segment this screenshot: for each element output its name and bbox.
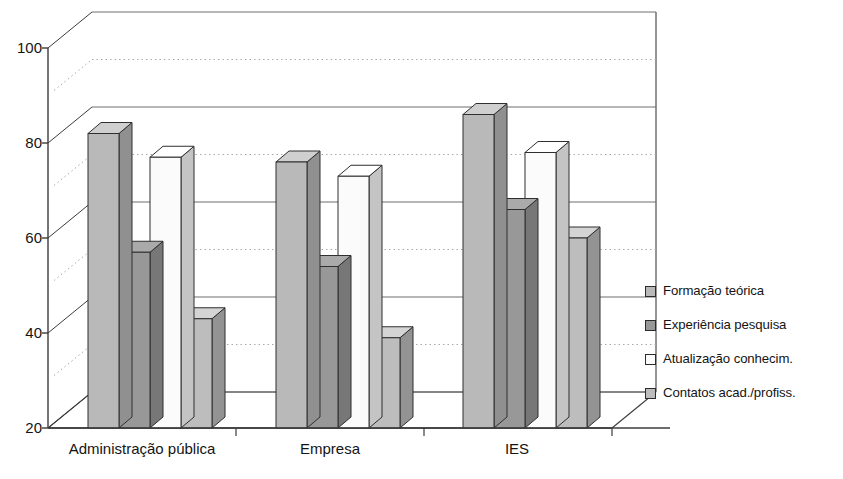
bar-0-0 [88,123,132,429]
bar-side-face [150,241,163,428]
y-axis-label-20: 20 [0,420,42,435]
bar-side-face [338,256,351,429]
grid-connector-minor-70 [54,155,92,186]
bar-side-face [494,104,507,429]
y-axis-label-60: 60 [0,230,42,245]
legend-item-3[interactable]: Contatos acad./profiss. [645,376,843,410]
grid-connector-60 [48,202,92,238]
bar-side-face [119,123,132,429]
bar-side-face [525,199,538,429]
y-axis-label-100: 100 [0,40,42,55]
bar-side-face [307,151,320,428]
y-axis-label-80: 80 [0,135,42,150]
bar-front-face [463,115,494,429]
grid-connector-40 [48,297,92,333]
x-axis-label-2: IES [407,441,627,457]
legend-item-label: Formação teórica [663,284,764,298]
legend-item-1[interactable]: Experiência pesquisa [645,308,843,342]
grid-connector-minor-50 [54,250,92,281]
legend-item-label: Experiência pesquisa [663,318,786,332]
legend-item-2[interactable]: Atualização conhecim. [645,342,843,376]
legend-item-label: Contatos acad./profiss. [663,386,796,400]
chart-legend: Formação teóricaExperiência pesquisaAtua… [645,274,843,410]
grid-connector-100 [48,12,92,48]
legend-swatch-icon [645,354,656,365]
legend-swatch-icon [645,286,656,297]
bar-front-face [276,162,307,428]
bar-2-0 [463,104,507,429]
bar-side-face [181,146,194,428]
bar-side-face [587,227,600,428]
bar-side-face [400,327,413,428]
bar-side-face [212,308,225,428]
legend-item-label: Atualização conhecim. [663,352,793,366]
grid-connector-minor-30 [54,345,92,376]
bar-1-0 [276,151,320,428]
legend-item-0[interactable]: Formação teórica [645,274,843,308]
legend-swatch-icon [645,320,656,331]
bar-front-face [88,134,119,429]
y-axis-label-40: 40 [0,325,42,340]
legend-swatch-icon [645,388,656,399]
bar-side-face [369,165,382,428]
bar-chart-3d: 10080604020 Administração públicaEmpresa… [0,0,843,479]
grid-connector-minor-90 [54,60,92,91]
x-axis-label-0: Administração pública [32,441,252,457]
bar-side-face [556,142,569,429]
grid-connector-80 [48,107,92,143]
